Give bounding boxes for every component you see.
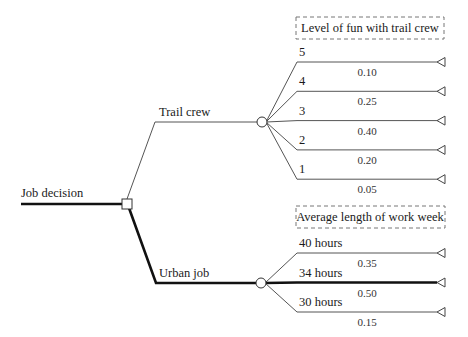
trail-crew-outcomes: 50.1040.2530.4020.2010.05 (266, 45, 445, 195)
urban-job-outcome-line (265, 283, 437, 284)
trail-crew-terminal-triangle-icon (437, 116, 445, 125)
urban-job-outcome-line (265, 283, 437, 312)
trail-crew-label: Trail crew (159, 105, 210, 119)
trail-crew-outcome-line (266, 62, 437, 122)
urban-job-label: Urban job (159, 266, 209, 280)
urban-job-outcome-label: 40 hours (299, 236, 343, 250)
urban-job-header-text: Average length of work week (296, 210, 444, 224)
trail-crew-chance-node (257, 117, 267, 127)
urban-job-outcomes: 40 hours0.3534 hours0.5030 hours0.15 (265, 236, 445, 328)
trail-crew-outcome-label: 2 (299, 133, 305, 147)
trail-crew-outcome-line (266, 122, 437, 179)
trail-crew-outcome-label: 5 (299, 45, 305, 59)
trail-crew-outcome-label: 1 (299, 162, 305, 176)
root-label: Job decision (21, 186, 84, 200)
urban-job-outcome-label: 30 hours (299, 295, 343, 309)
trail-crew-outcome-probability: 0.10 (357, 66, 377, 78)
decision-tree-diagram: Job decision Trail crew Urban job 50.104… (0, 0, 468, 337)
trail-crew-header-text: Level of fun with trail crew (301, 21, 439, 35)
urban-job-terminal-triangle-icon (437, 249, 445, 258)
decision-node-square (122, 199, 132, 209)
trail-crew-outcome-probability: 0.20 (357, 154, 377, 166)
trail-crew-terminal-triangle-icon (437, 175, 445, 184)
urban-job-outcome-probability: 0.35 (357, 257, 377, 269)
trail-crew-outcome-label: 4 (299, 74, 306, 88)
trail-crew-outcome-probability: 0.25 (357, 95, 377, 107)
urban-job-outcome-probability: 0.15 (357, 316, 377, 328)
trail-crew-terminal-triangle-icon (437, 58, 445, 67)
urban-job-terminal-triangle-icon (437, 308, 445, 317)
trail-crew-terminal-triangle-icon (437, 145, 445, 154)
decision-tree-canvas: Job decision Trail crew Urban job 50.104… (0, 0, 468, 337)
urban-job-outcome-probability: 0.50 (357, 287, 377, 299)
urban-job-terminal-triangle-icon (437, 278, 445, 287)
trail-crew-outcome-probability: 0.05 (357, 183, 377, 195)
trail-crew-outcome-label: 3 (299, 104, 305, 118)
urban-job-outcome-line (265, 253, 437, 283)
trail-crew-branch-line (127, 122, 257, 199)
urban-job-chance-node (256, 278, 266, 288)
trail-crew-outcome-line (266, 121, 437, 122)
trail-crew-terminal-triangle-icon (437, 87, 445, 96)
urban-job-outcome-label: 34 hours (299, 266, 343, 280)
trail-crew-outcome-line (266, 91, 437, 122)
trail-crew-outcome-probability: 0.40 (357, 125, 377, 137)
trail-crew-outcome-line (266, 122, 437, 150)
